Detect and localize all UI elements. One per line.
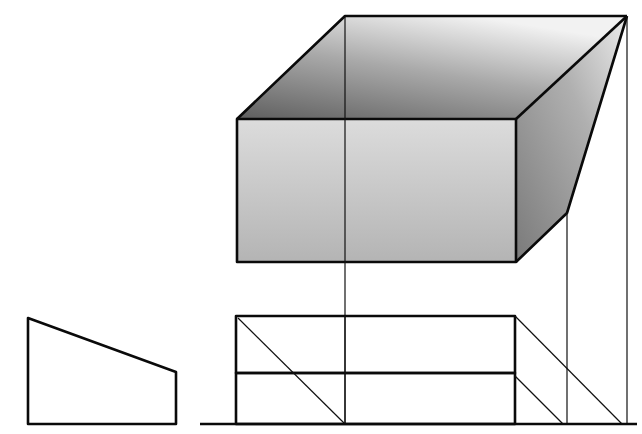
- profile-trapezoid: [28, 318, 176, 424]
- elevation-lower-rect: [236, 373, 515, 424]
- elevation-view: [236, 316, 622, 424]
- front-face: [237, 119, 516, 262]
- construction-diagonal-lower: [515, 376, 563, 424]
- elevation-diagonal: [238, 318, 344, 423]
- projection-diagram: [0, 0, 642, 434]
- oblique-box: [237, 16, 627, 262]
- profile-view: [28, 318, 176, 424]
- construction-diagonal-upper: [515, 316, 622, 424]
- elevation-upper-rect: [236, 316, 515, 373]
